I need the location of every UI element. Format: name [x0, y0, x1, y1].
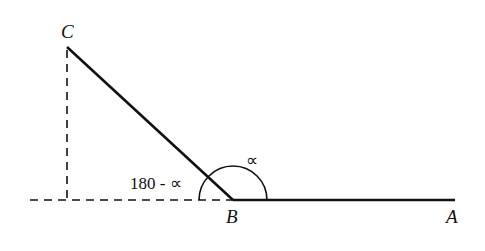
angle-label-supplement: 180 - ∝ — [130, 174, 182, 193]
angle-label-alpha: ∝ — [246, 151, 258, 170]
point-label-C: C — [61, 21, 74, 42]
point-label-B: B — [226, 206, 238, 227]
point-label-A: A — [444, 206, 458, 227]
angle-arc — [199, 166, 267, 200]
diagram-canvas: C B A ∝ 180 - ∝ — [0, 0, 485, 251]
geometry-figure: C B A ∝ 180 - ∝ — [0, 0, 485, 251]
